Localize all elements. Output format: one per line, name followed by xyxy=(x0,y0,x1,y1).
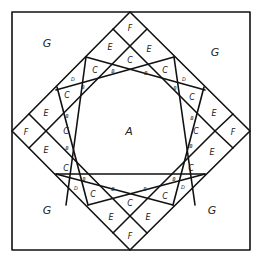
piece-label-e: E xyxy=(146,45,152,54)
piece-label-b: B xyxy=(172,176,176,182)
piece-label-e: E xyxy=(107,43,113,52)
piece-label-f: F xyxy=(128,24,133,33)
piece-label-e: E xyxy=(209,148,215,157)
piece-label-f: F xyxy=(231,128,236,137)
piece-label-f: F xyxy=(24,128,29,137)
piece-label-c: C xyxy=(162,66,168,75)
piece-label-c: C xyxy=(90,190,96,199)
piece-label-c: C xyxy=(189,93,195,102)
piece-label-b: B xyxy=(111,68,115,74)
piece-label-g: G xyxy=(43,37,52,50)
piece-label-e: E xyxy=(108,213,114,222)
piece-label-b: B xyxy=(143,186,147,192)
piece-label-b: B xyxy=(111,186,115,192)
piece-label-c: C xyxy=(63,127,69,136)
piece-label-g: G xyxy=(208,204,217,217)
piece-label-e: E xyxy=(43,146,49,155)
piece-label-b: B xyxy=(82,176,86,182)
piece-label-b: B xyxy=(190,115,194,121)
piece-label-g: G xyxy=(211,46,220,59)
piece-label-g: G xyxy=(43,204,52,217)
piece-label-c: C xyxy=(64,91,70,100)
piece-label-f: F xyxy=(128,232,133,241)
piece-label-c: C xyxy=(127,56,133,65)
piece-label-e: E xyxy=(211,109,217,118)
piece-label-d: D xyxy=(181,184,185,190)
piece-label-c: C xyxy=(92,66,98,75)
piece-label-c: C xyxy=(162,192,168,201)
piece-labels: GGGGAFFFFEEEEEEEECCCCCCCCCCCCDDDDBBBBBBB… xyxy=(24,24,236,241)
piece-label-c: C xyxy=(127,199,133,208)
piece-label-e: E xyxy=(145,213,151,222)
piece-label-c: C xyxy=(63,164,69,173)
piece-label-d: D xyxy=(74,185,78,191)
piece-label-c: C xyxy=(188,164,194,173)
piece-label-d: D xyxy=(71,76,75,82)
piece-label-b: B xyxy=(81,84,85,90)
piece-label-c: C xyxy=(193,127,199,136)
piece-label-b: B xyxy=(189,143,193,149)
piece-label-b: B xyxy=(65,113,69,119)
quilt-pattern-diagram: GGGGAFFFFEEEEEEEECCCCCCCCCCCCDDDDBBBBBBB… xyxy=(0,0,260,259)
piece-label-e: E xyxy=(43,109,49,118)
piece-label-b: B xyxy=(173,85,177,91)
piece-label-b: B xyxy=(65,145,69,151)
piece-label-b: B xyxy=(144,70,148,76)
piece-label-d: D xyxy=(182,76,186,82)
piece-label-a: A xyxy=(124,125,133,138)
